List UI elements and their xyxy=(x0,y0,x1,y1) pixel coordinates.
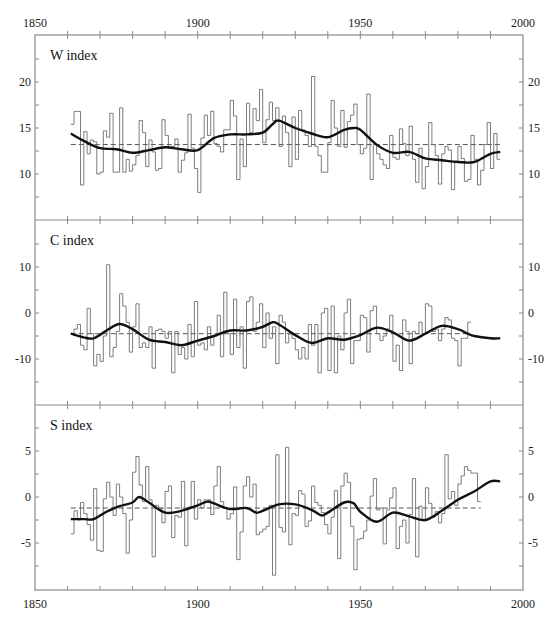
y-tick-label-left: 15 xyxy=(19,121,31,135)
y-tick-label-right: 5 xyxy=(528,444,534,458)
bottom-x-tick-label: 1900 xyxy=(186,597,210,611)
y-tick-label-right: 10 xyxy=(528,167,540,181)
annual-step-series xyxy=(71,77,500,193)
bottom-x-tick-label: 2000 xyxy=(511,597,535,611)
y-tick-label-left: -5 xyxy=(21,536,31,550)
panel-title: W index xyxy=(50,48,98,63)
top-x-tick-label: 1950 xyxy=(348,16,372,30)
y-tick-label-left: 0 xyxy=(25,306,31,320)
annual-step-series xyxy=(71,265,471,373)
y-tick-label-left: 0 xyxy=(25,490,31,504)
y-tick-label-left: 10 xyxy=(19,167,31,181)
y-tick-label-left: -10 xyxy=(15,352,31,366)
y-tick-label-right: 15 xyxy=(528,121,540,135)
y-tick-label-left: 5 xyxy=(25,444,31,458)
y-tick-label-right: 10 xyxy=(528,260,540,274)
y-tick-label-right: 0 xyxy=(528,490,534,504)
chart-canvas: 18501900195020001850190019502000 1010151… xyxy=(0,0,557,621)
panel-s-index: -5-50055S index xyxy=(21,418,538,575)
bottom-x-tick-label: 1850 xyxy=(23,597,47,611)
annual-step-series xyxy=(71,447,481,575)
bottom-x-tick-label: 1950 xyxy=(348,597,372,611)
y-tick-label-left: 20 xyxy=(19,75,31,89)
top-x-tick-label: 1850 xyxy=(23,16,47,30)
y-tick-label-right: 0 xyxy=(528,306,534,320)
top-x-tick-label: 1900 xyxy=(186,16,210,30)
panel-w-index: 101015152020W index xyxy=(19,48,540,197)
panel-c-index: -10-10001010C index xyxy=(15,233,544,382)
panel-title: S index xyxy=(50,418,92,433)
climate-index-figure: 18501900195020001850190019502000 1010151… xyxy=(0,0,557,621)
y-tick-label-left: 10 xyxy=(19,260,31,274)
y-tick-label-right: -5 xyxy=(528,536,538,550)
y-tick-label-right: -10 xyxy=(528,352,544,366)
panel-title: C index xyxy=(50,233,94,248)
y-tick-label-right: 20 xyxy=(528,75,540,89)
top-x-tick-label: 2000 xyxy=(511,16,535,30)
